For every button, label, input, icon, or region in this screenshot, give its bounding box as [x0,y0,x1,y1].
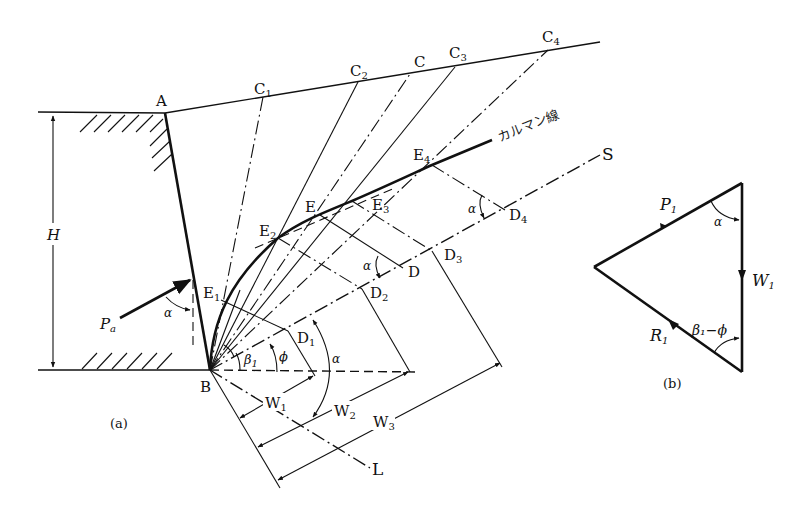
label-h: H [46,226,61,244]
hatching-top [80,115,172,171]
label-c3: C3 [449,44,467,63]
alpha-arc-d [376,256,380,278]
label-beta1: β1 [243,352,258,369]
label-d4: D4 [509,206,527,225]
label-alpha-large: α [332,352,340,366]
label-e3: E3 [372,196,389,215]
trial-line-bc3 [210,67,455,370]
label-c2: C2 [350,62,368,81]
weight-base-line [210,370,280,488]
alpha-arc-d4 [480,195,484,218]
r1-arrowhead [668,319,679,330]
culmann-diagram: A B C1 C2 C C3 C4 E1 E2 E E3 E4 D1 D2 D … [0,0,805,523]
active-pressure-arrow [120,280,190,318]
horizontal-dashed [210,370,420,372]
label-w1-b: W1 [752,271,775,291]
label-culmann-line: カルマン線 [496,107,562,145]
label-s: S [602,144,614,164]
label-phi: ϕ [279,349,288,364]
phi-arc [270,344,277,372]
label-c1: C1 [254,80,272,99]
e-d-line [320,215,403,268]
label-b: B [200,378,211,396]
alpha-arc-large [313,320,330,417]
label-c: C [414,53,425,71]
w1-arrowhead [738,270,746,281]
label-d3: D3 [444,246,462,265]
label-e2: E2 [259,222,276,241]
label-l: L [372,459,383,479]
panel-b-caption: (b) [663,376,681,391]
label-e4: E4 [413,146,430,165]
r1-vector [594,267,742,372]
label-alpha-pa: α [164,306,172,320]
label-alpha-d: α [363,259,371,273]
phi-line-s [210,155,600,370]
panel-a-caption: (a) [110,416,128,431]
trial-line-bc [210,74,410,370]
label-beta-minus-phi: β₁−ϕ [691,322,727,338]
label-d2: D2 [370,284,388,303]
label-a: A [155,92,167,110]
e2-d2-line [278,238,362,289]
label-pa: Pa [99,315,116,334]
label-d1: D1 [297,329,315,348]
label-e: E [305,198,316,216]
label-c4: C4 [542,28,560,47]
ground-surface-left [38,112,165,113]
label-r1: R1 [649,326,668,346]
hatching-bottom [82,353,172,369]
panel-b-force-polygon: P1 W1 R1 α β₁−ϕ (b) [594,183,775,391]
wall-back-face [165,113,210,370]
label-alpha-d4: α [468,202,476,216]
label-p1: P1 [659,195,677,215]
label-d: D [408,263,420,281]
label-alpha-b: α [714,215,722,229]
trial-line-bc1 [210,97,263,370]
trial-line-bc2 [210,82,358,370]
beta-phi-arc [714,338,739,353]
backfill-surface [165,42,600,113]
label-e1: E1 [203,284,220,303]
